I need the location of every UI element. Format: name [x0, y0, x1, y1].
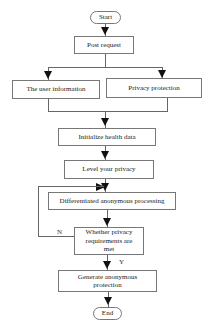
edge-label-no: N	[57, 228, 62, 236]
loop-no-horizontal-top	[38, 186, 104, 187]
connector-privacy-down	[167, 98, 168, 112]
arrow-to-decision	[103, 218, 111, 226]
user-information-node: The user information	[12, 80, 100, 99]
arrow-loop-back	[96, 183, 109, 191]
differentiated-processing-node: Differentiated anonymous processing	[48, 192, 176, 210]
arrow-to-level-privacy	[101, 151, 109, 159]
generate-protection-node: Generate anonymous protection	[58, 270, 157, 292]
level-privacy-node: Level your privacy	[64, 160, 154, 179]
start-node: Start	[90, 11, 121, 24]
arrow-to-initialize	[101, 118, 109, 126]
connector-merge-horizontal	[48, 111, 168, 112]
connector-split-horizontal	[48, 67, 163, 68]
connector-post-split	[105, 54, 106, 68]
initialize-health-data-node: Initialize health data	[58, 128, 156, 146]
arrow-to-generate	[103, 261, 111, 269]
edge-label-yes: Y	[119, 258, 124, 266]
decision-node: Whether privacy requirements are met	[74, 227, 144, 255]
post-request-node: Post request	[74, 36, 134, 54]
end-node: End	[93, 307, 122, 320]
loop-no-vertical	[38, 186, 39, 237]
arrow-to-privacy-protection	[158, 70, 166, 78]
loop-no-horizontal-bottom	[38, 236, 74, 237]
arrow-to-user-information	[44, 71, 52, 79]
privacy-protection-node: Privacy protection	[106, 78, 202, 98]
arrow-to-end	[104, 297, 112, 305]
arrow-to-post-request	[101, 27, 109, 35]
